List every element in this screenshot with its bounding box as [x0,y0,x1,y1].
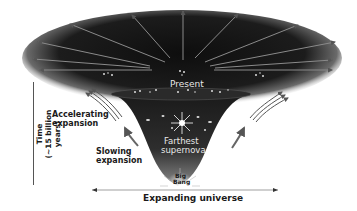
slowing-label-2: expansion [96,156,142,165]
expanding-universe-diagram: Present Accelerating expansion Slowing e… [0,0,357,211]
y-axis-label: Time (~15 billion years) [35,99,62,169]
y-axis-line [33,82,34,185]
x-axis-label: Expanding universe [143,194,243,203]
big-bang-label-2: Bang [173,179,190,185]
slowing-label-1: Slowing [96,147,132,156]
present-label: Present [170,80,204,89]
y-axis-label-2: (~15 billion years) [44,99,62,169]
y-axis-label-1: Time [35,99,44,169]
farthest-supernova-label-2: supernova [161,146,206,155]
